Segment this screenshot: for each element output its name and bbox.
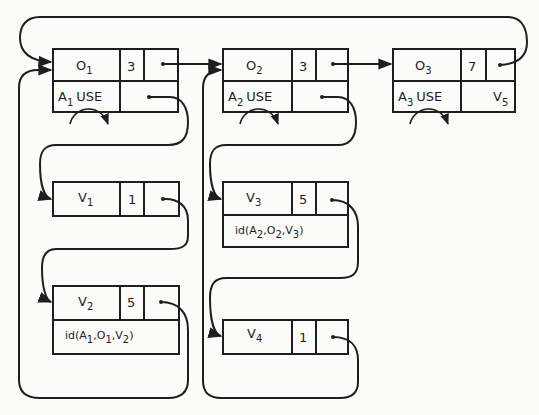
o1-attr-label: A1USE: [58, 89, 102, 108]
v2-name: V2: [78, 294, 93, 312]
o2-attr-label: A2USE: [228, 89, 272, 108]
edge-v2-to-o1: [19, 70, 188, 398]
v2-count: 5: [127, 295, 135, 310]
value-node-v4: V4 1: [223, 320, 348, 354]
o2-name: O2: [246, 58, 263, 76]
o3-name: O3: [415, 58, 432, 76]
o2-count: 3: [299, 59, 307, 74]
v2-id-function: id(A1,O1,V2): [65, 329, 133, 345]
edge-o3-to-o1: [20, 17, 527, 65]
object-node-o3: O3 7 A3USE V5: [393, 49, 515, 124]
v1-outline: [53, 182, 179, 216]
v4-name: V4: [247, 326, 262, 344]
o3-extra-value: V5: [493, 89, 508, 108]
v3-count: 5: [299, 192, 307, 207]
v1-count: 1: [128, 192, 136, 207]
v3-name: V3: [246, 190, 261, 208]
linked-structure-diagram: O1 3 A1USE O2 3 A2USE O3 7 A3USE V5: [0, 0, 539, 415]
o3-count: 7: [468, 59, 476, 74]
value-node-v2: V2 5 id(A1,O1,V2): [53, 286, 179, 354]
value-node-v1: V1 1: [53, 182, 179, 216]
o3-attr-label: A3USE: [398, 89, 442, 108]
v4-count: 1: [299, 330, 307, 345]
object-node-o2: O2 3 A2USE: [223, 49, 348, 124]
object-node-o1: O1 3 A1USE: [53, 49, 178, 124]
v1-name: V1: [78, 190, 93, 208]
o1-count: 3: [127, 59, 135, 74]
edge-v3-to-v4: [210, 200, 358, 336]
value-node-v3: V3 5 id(A2,O2,V3): [223, 182, 348, 247]
v3-id-function: id(A2,O2,V3): [235, 224, 303, 240]
v4-outline: [223, 320, 348, 354]
o1-name: O1: [76, 58, 93, 76]
